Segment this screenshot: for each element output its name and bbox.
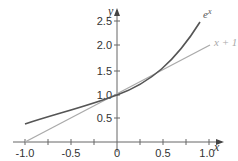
x-tick-label: 0.5 [155,147,170,159]
x-tick-label: -1.0 [16,147,35,159]
chart: -1.0 -0.5 0 0.5 1.0 0.5 1.0 1.5 2.0 2.5 … [0,0,238,161]
y-axis-arrow-icon [114,8,120,16]
y-tick-label: 0.5 [97,112,112,124]
y-tick-label: 2.0 [97,39,112,51]
x-tick-label: 0 [114,147,120,159]
linear-curve-label: x + 1 [213,36,237,48]
exp-curve-label: ex [203,7,212,20]
x-tick-label: 1.0 [199,147,214,159]
x-axis-label: x [213,140,220,154]
y-tick-label: 1.5 [97,65,112,77]
x-tick-label: -0.5 [62,147,81,159]
curve-exp [25,22,200,124]
y-axis-label: y [107,4,114,18]
